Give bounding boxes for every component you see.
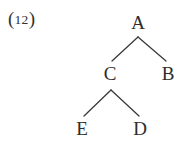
tree-node-a: A	[131, 13, 145, 32]
edge-a-b	[138, 37, 166, 61]
tree-node-b: B	[162, 64, 175, 83]
tree-node-d: D	[133, 119, 147, 138]
example-number-close-paren: )	[29, 8, 36, 29]
edge-c-d	[111, 90, 139, 116]
example-number-label: (12)	[8, 9, 35, 28]
tree-node-e: E	[76, 119, 88, 138]
tree-node-c: C	[104, 64, 117, 83]
edge-c-e	[84, 90, 111, 116]
edge-a-c	[112, 37, 138, 61]
syntax-tree-figure: (12) A C B E D	[0, 0, 192, 153]
example-number-digits: 12	[15, 12, 29, 27]
